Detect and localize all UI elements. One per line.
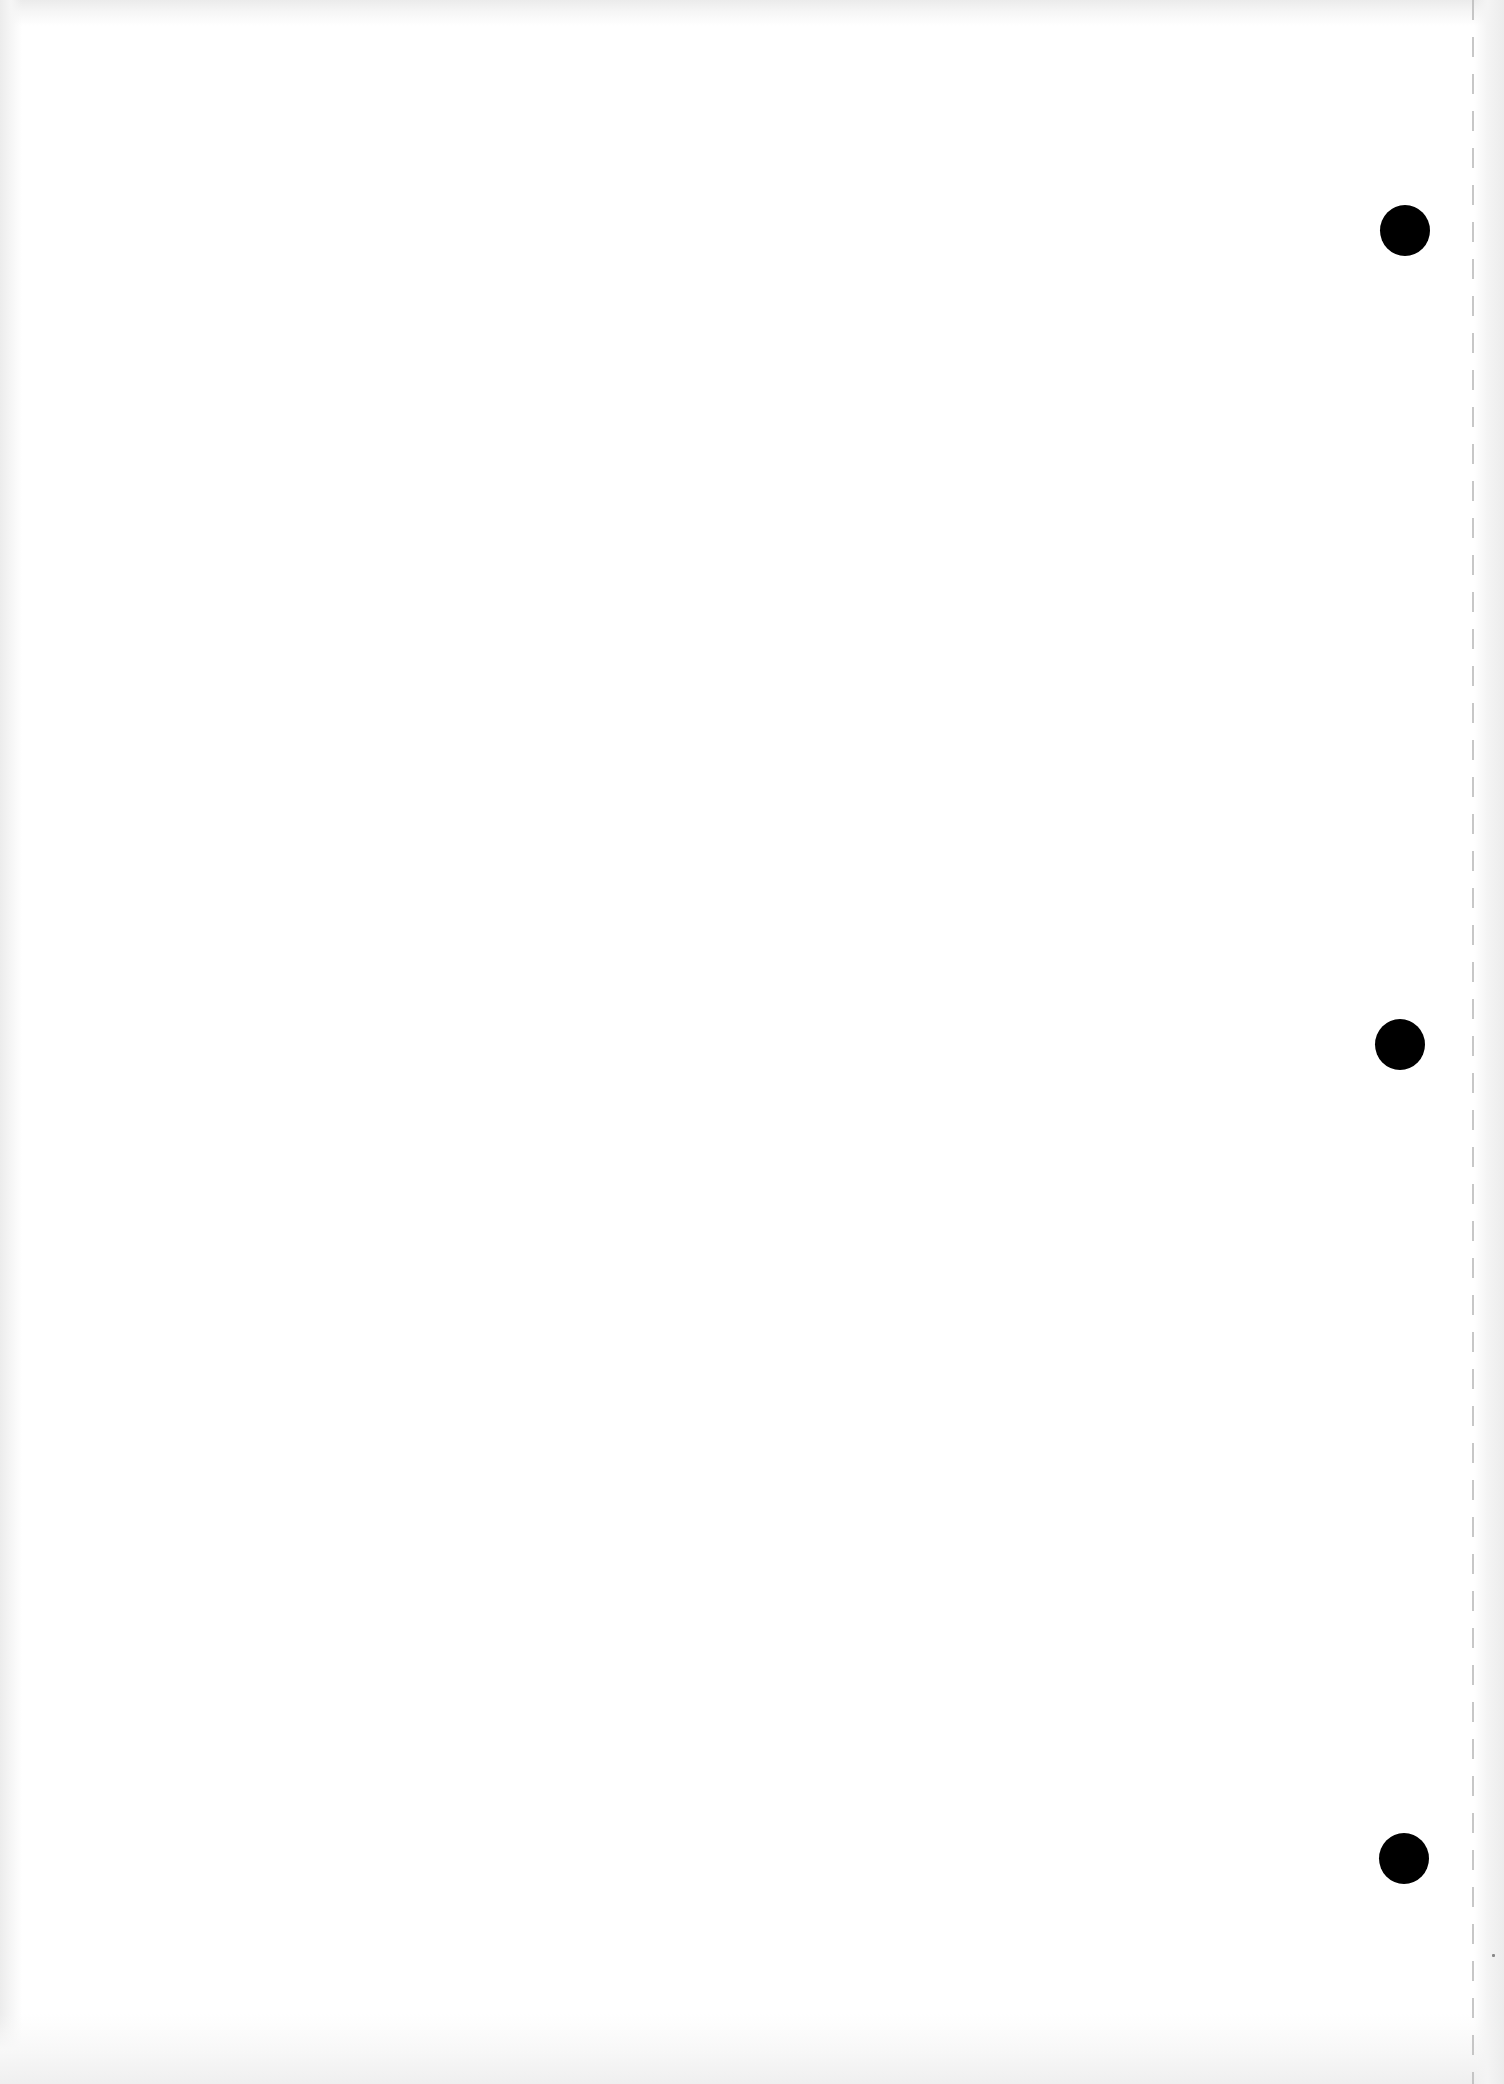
scan-shadow-left bbox=[0, 0, 22, 2084]
binder-hole-middle bbox=[1375, 1019, 1425, 1070]
scan-shadow-bottom bbox=[0, 2014, 1504, 2084]
perforation-line bbox=[1472, 0, 1474, 2084]
scan-shadow-top bbox=[0, 0, 1504, 26]
binder-hole-top bbox=[1380, 205, 1430, 256]
scan-shadow-right bbox=[1474, 0, 1504, 2084]
scan-speck bbox=[1492, 1954, 1495, 1957]
blank-paper-sheet bbox=[0, 0, 1504, 2084]
binder-hole-bottom bbox=[1379, 1833, 1429, 1884]
